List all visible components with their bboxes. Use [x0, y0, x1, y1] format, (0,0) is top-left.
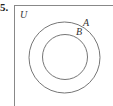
set-b-label: B — [76, 26, 82, 37]
universe-label: U — [20, 9, 28, 20]
set-a-circle — [29, 22, 100, 93]
set-b-circle — [43, 35, 88, 80]
set-a-label: A — [82, 17, 90, 28]
venn-diagram: U A B — [0, 0, 113, 106]
